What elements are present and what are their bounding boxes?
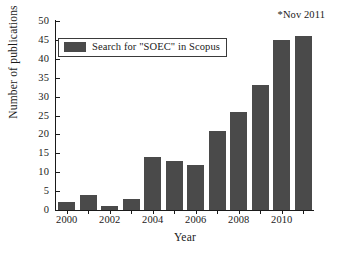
x-tick-label-2002: 2002 — [99, 215, 120, 226]
bar-2009 — [252, 85, 269, 210]
y-tick-label-5: 5 — [44, 186, 49, 197]
y-axis-tick-labels: 05101520253035404550 — [0, 21, 55, 210]
x-axis-title: Year — [56, 231, 314, 243]
x-tick-label-2000: 2000 — [56, 215, 77, 226]
bar-2004 — [144, 157, 161, 210]
x-tick-label-2008: 2008 — [228, 215, 249, 226]
y-tick-label-20: 20 — [38, 129, 49, 140]
y-tick-label-25: 25 — [38, 110, 49, 121]
x-tick-2003 — [131, 210, 132, 214]
legend-label: Search for "SOEC" in Scopus — [92, 42, 220, 53]
y-tick-label-30: 30 — [38, 91, 49, 102]
x-tick-2011 — [303, 210, 304, 214]
y-tick-label-50: 50 — [38, 16, 49, 27]
bar-2000 — [58, 202, 75, 210]
x-tick-label-2010: 2010 — [271, 215, 292, 226]
x-tick-label-2004: 2004 — [142, 215, 163, 226]
y-tick-label-10: 10 — [38, 167, 49, 178]
bar-chart-figure: Number of publications 05101520253035404… — [0, 0, 337, 257]
bar-2001 — [80, 195, 97, 210]
bar-2007 — [209, 131, 226, 210]
x-tick-2001 — [88, 210, 89, 214]
chart-annotation: *Nov 2011 — [278, 10, 325, 21]
y-tick-label-45: 45 — [38, 35, 49, 46]
bar-2003 — [123, 199, 140, 210]
x-tick-2005 — [174, 210, 175, 214]
bar-2006 — [187, 165, 204, 210]
bar-2010 — [273, 40, 290, 210]
bar-2011 — [295, 36, 312, 210]
x-tick-2009 — [260, 210, 261, 214]
bar-2008 — [230, 112, 247, 210]
chart-legend: Search for "SOEC" in Scopus — [58, 38, 227, 57]
y-tick-label-40: 40 — [38, 54, 49, 65]
legend-swatch-icon — [64, 42, 86, 52]
x-tick-2007 — [217, 210, 218, 214]
y-tick-label-35: 35 — [38, 72, 49, 83]
bar-2005 — [166, 161, 183, 210]
y-tick-label-15: 15 — [38, 148, 49, 159]
x-tick-label-2006: 2006 — [185, 215, 206, 226]
y-tick-label-0: 0 — [44, 205, 49, 216]
